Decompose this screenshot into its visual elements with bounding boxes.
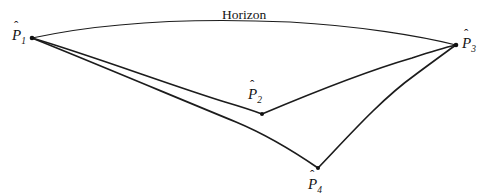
- point-label-p2-base: ˆP: [248, 86, 257, 102]
- curve-p1-to-p4: [32, 38, 318, 168]
- hat-accent-p3: ˆ: [464, 27, 468, 40]
- point-label-p3: ˆP3: [462, 35, 476, 55]
- curve-p1-to-p2: [32, 38, 262, 114]
- horizon-curve: [32, 20, 456, 45]
- point-label-p1-subscript: 1: [21, 36, 26, 46]
- vertex-dot-p2: [260, 112, 264, 116]
- point-label-p4-base: ˆP: [308, 176, 317, 192]
- hat-accent-p2: ˆ: [250, 78, 254, 91]
- vertex-dot-p1: [30, 36, 35, 41]
- figure-svg: [0, 0, 493, 196]
- curve-p2-to-p3: [262, 45, 456, 114]
- point-label-p2: ˆP2: [248, 86, 262, 106]
- curve-p4-to-p3: [318, 45, 456, 168]
- hat-accent-p4: ˆ: [310, 168, 314, 181]
- vertex-dot-p3: [454, 43, 459, 48]
- hat-accent-p1: ˆ: [14, 19, 18, 32]
- point-label-p4: ˆP4: [308, 176, 322, 196]
- point-label-p1-base: ˆP: [12, 27, 21, 43]
- point-label-p1: ˆP1: [12, 27, 26, 47]
- figure-canvas: Horizon ˆP1 ˆP2 ˆP3 ˆP4: [0, 0, 493, 196]
- point-label-p3-subscript: 3: [471, 44, 476, 54]
- vertex-dot-p4: [316, 166, 320, 170]
- point-label-p4-subscript: 4: [317, 185, 322, 195]
- point-label-p3-base: ˆP: [462, 35, 471, 51]
- horizon-label: Horizon: [222, 8, 266, 22]
- point-label-p2-subscript: 2: [257, 95, 262, 105]
